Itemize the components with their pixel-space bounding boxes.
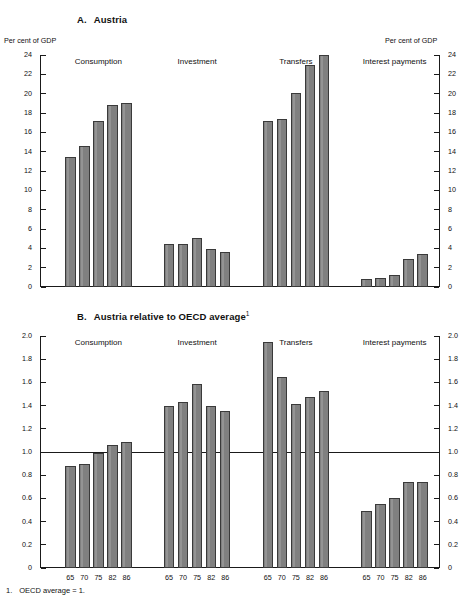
x-tick-label: 75	[391, 573, 399, 582]
y-tick-label-left: 10	[24, 186, 32, 194]
y-tick-label-right: 2	[448, 264, 452, 272]
y-tick-left	[41, 132, 46, 133]
bar	[417, 482, 428, 568]
x-tick-label: 82	[108, 573, 116, 582]
y-tick-left	[41, 229, 46, 230]
y-tick-label-right: 12	[448, 167, 456, 175]
y-tick-right	[434, 151, 439, 152]
y-tick-label-left: 2.0	[22, 332, 32, 340]
bar	[291, 93, 302, 287]
bar	[305, 65, 316, 287]
bar	[389, 275, 400, 287]
y-tick-label-left: 12	[24, 167, 32, 175]
panel-a-unit-left: Per cent of GDP	[4, 36, 56, 45]
x-tick-label: 70	[80, 573, 88, 582]
bar	[206, 249, 217, 287]
x-tick-label: 82	[207, 573, 215, 582]
x-tick-label: 70	[278, 573, 286, 582]
y-tick-left	[41, 568, 46, 569]
y-tick-label-right: 0.4	[448, 518, 458, 526]
panel-b-title-footnote-marker: 1	[246, 310, 250, 317]
bar	[403, 259, 414, 287]
figure-footnote: 1.OECD average = 1.	[6, 586, 85, 595]
x-tick-label: 65	[66, 573, 74, 582]
figure-canvas: A.Austria Per cent of GDP Per cent of GD…	[0, 0, 469, 603]
y-tick-left	[41, 544, 46, 545]
y-tick-label-left: 6	[28, 225, 32, 233]
y-tick-right	[434, 229, 439, 230]
y-tick-right	[434, 544, 439, 545]
y-tick-right	[434, 336, 439, 337]
bar	[291, 404, 302, 568]
group-label-transfers: Transfers	[279, 338, 313, 347]
x-tick-label: 82	[306, 573, 314, 582]
bar	[389, 498, 400, 568]
x-tick-label: 70	[377, 573, 385, 582]
bar	[65, 157, 76, 287]
bar	[361, 279, 372, 287]
footnote-text: OECD average = 1.	[19, 586, 85, 595]
y-tick-left	[41, 287, 46, 288]
y-tick-label-right: 6	[448, 225, 452, 233]
y-tick-right	[434, 405, 439, 406]
y-tick-label-right: 1.6	[448, 378, 458, 386]
bar	[107, 445, 118, 568]
y-tick-left	[41, 171, 46, 172]
y-tick-label-right: 24	[448, 51, 456, 59]
y-tick-label-left: 22	[24, 70, 32, 78]
bar	[277, 377, 288, 568]
y-tick-label-left: 1.6	[22, 378, 32, 386]
y-tick-right	[434, 93, 439, 94]
y-tick-right	[434, 132, 439, 133]
panel-b-plot: 000.20.20.40.40.60.60.80.81.01.01.21.21.…	[40, 336, 440, 568]
y-tick-label-right: 14	[448, 148, 456, 156]
panel-a-title: A.Austria	[77, 14, 127, 25]
x-tick-label: 75	[94, 573, 102, 582]
group-label-interest-payments: Interest payments	[363, 338, 427, 347]
y-tick-right	[434, 190, 439, 191]
y-tick-label-right: 1.4	[448, 402, 458, 410]
y-tick-label-right: 0	[448, 283, 452, 291]
bar	[319, 391, 330, 568]
y-tick-right	[434, 359, 439, 360]
y-tick-right	[434, 171, 439, 172]
x-tick-label: 70	[179, 573, 187, 582]
y-tick-right	[434, 475, 439, 476]
panel-a-unit-right: Per cent of GDP	[385, 36, 437, 45]
bar	[93, 453, 104, 568]
y-tick-label-left: 16	[24, 128, 32, 136]
x-tick-label: 75	[292, 573, 300, 582]
bar	[192, 238, 203, 287]
y-tick-label-left: 0.6	[22, 494, 32, 502]
y-tick-label-left: 18	[24, 109, 32, 117]
y-tick-left	[41, 267, 46, 268]
group-label-interest-payments: Interest payments	[363, 57, 427, 66]
bar	[319, 55, 330, 287]
bar	[220, 411, 231, 568]
y-tick-left	[41, 93, 46, 94]
y-tick-left	[41, 405, 46, 406]
y-tick-right	[434, 428, 439, 429]
bar	[178, 244, 189, 288]
y-tick-label-left: 24	[24, 51, 32, 59]
y-tick-label-left: 4	[28, 244, 32, 252]
x-tick-label: 86	[221, 573, 229, 582]
y-tick-label-left: 1.2	[22, 425, 32, 433]
y-tick-label-right: 1.0	[448, 448, 458, 456]
group-label-investment: Investment	[178, 338, 217, 347]
y-tick-right	[434, 382, 439, 383]
y-tick-label-right: 8	[448, 206, 452, 214]
y-tick-right	[434, 209, 439, 210]
y-tick-left	[41, 382, 46, 383]
y-tick-label-right: 0	[448, 564, 452, 572]
y-tick-right	[434, 74, 439, 75]
bar	[263, 121, 274, 287]
bar	[375, 504, 386, 568]
bar	[164, 406, 175, 568]
y-tick-left	[41, 74, 46, 75]
y-tick-label-left: 1.4	[22, 402, 32, 410]
bar	[403, 482, 414, 568]
y-tick-right	[434, 248, 439, 249]
panel-a-axis-right	[439, 55, 440, 287]
bar	[121, 442, 132, 568]
